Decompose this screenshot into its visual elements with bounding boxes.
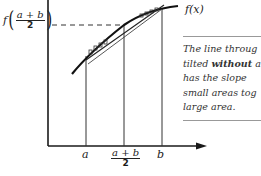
y-label-func: f — [3, 14, 7, 27]
right-paren: ) — [46, 9, 52, 31]
note-bold-word: without — [211, 58, 252, 69]
note-line-2-pre: tilted — [183, 58, 211, 69]
note-line-1: The line throug — [183, 42, 261, 57]
note-line-5: large area. — [183, 100, 261, 115]
x-tick-a: a — [82, 149, 89, 160]
margin-note: The line throug tilted without a has the… — [183, 36, 261, 121]
y-label-denominator: 2 — [27, 21, 33, 31]
x-tick-mid-denominator: 2 — [122, 159, 128, 169]
x-axis-arrow-icon — [196, 143, 207, 150]
x-tick-midpoint: a + b 2 — [111, 147, 140, 169]
tilted-line — [88, 9, 162, 64]
curve-label: f(x) — [185, 4, 204, 15]
note-line-2: tilted without a — [183, 57, 261, 72]
x-tick-b: b — [157, 149, 164, 160]
y-label-f-midpoint: f ( a + b 2 ) — [3, 9, 53, 31]
note-line-3: has the slope — [183, 71, 261, 86]
note-line-4: small areas tog — [183, 86, 261, 101]
left-paren: ( — [8, 9, 14, 31]
y-label-fraction: a + b 2 — [16, 9, 45, 31]
note-line-2-post: a — [252, 58, 261, 69]
